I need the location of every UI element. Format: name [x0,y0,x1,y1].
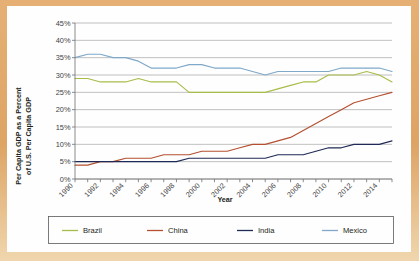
line-chart: 0%5%10%15%20%25%30%35%40%45% 19901992199… [7,6,411,252]
legend-label-india: India [258,226,275,235]
y-tick-label: 40% [56,36,71,45]
x-tick-label: 2012 [336,181,354,199]
axis-lines-group [75,23,392,179]
y-tick-label: 45% [56,19,71,28]
y-axis-title: Per Capita GDP as a Percent of U.S. Per … [14,87,33,185]
chart-legend: BrazilChinaIndiaMexico [49,217,394,244]
x-tick-label: 2006 [260,181,278,199]
x-tick-label: 2010 [311,181,329,199]
x-tick-label: 1992 [82,181,100,199]
y-axis-title-line2: of U.S. Per Capita GDP [24,97,33,175]
y-tick-label: 30% [56,71,71,80]
x-tick-label: 2004 [234,181,252,199]
x-tick-marks-group [75,179,392,182]
legend-label-brazil: Brazil [83,226,102,235]
gridlines-group [72,23,392,179]
y-tick-label: 35% [56,53,71,62]
legend-label-china: China [168,226,189,235]
x-tick-label: 2000 [184,181,202,199]
series-line-china [75,92,392,165]
legend-label-mexico: Mexico [343,226,367,235]
x-tick-label: 1996 [133,181,151,199]
chart-card: 0%5%10%15%20%25%30%35%40%45% 19901992199… [7,6,411,252]
y-tick-label: 20% [56,105,71,114]
x-tick-label: 1994 [108,181,126,199]
x-tick-label: 2008 [285,181,303,199]
chart-svg: 0%5%10%15%20%25%30%35%40%45% 19901992199… [7,6,411,252]
x-tick-label: 2014 [361,181,379,199]
x-tick-label: 1990 [57,181,75,199]
series-line-mexico [75,54,392,75]
figure-outer-frame: 0%5%10%15%20%25%30%35%40%45% 19901992199… [0,0,419,261]
x-axis-title: Year [217,195,232,204]
y-tick-label: 10% [56,140,71,149]
x-tick-label: 1998 [158,181,176,199]
y-tick-label: 5% [60,157,71,166]
y-tick-label: 15% [56,123,71,132]
series-line-brazil [75,72,392,93]
y-tick-labels-group: 0%5%10%15%20%25%30%35%40%45% [56,19,71,184]
y-axis-title-line1: Per Capita GDP as a Percent [14,87,23,185]
y-tick-label: 25% [56,88,71,97]
